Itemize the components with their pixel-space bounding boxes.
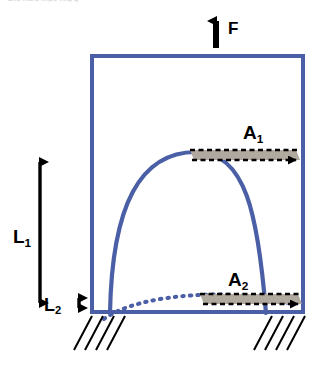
area-label-a2-subscript: 2: [242, 279, 249, 292]
area-label-a1: A1: [243, 123, 263, 142]
area-band-a1: [190, 150, 300, 160]
length-label-l1-subscript: 1: [25, 236, 32, 249]
length-label-l1-name: L: [13, 226, 25, 247]
area-label-a1-subscript: 1: [257, 132, 264, 145]
support-hatching-right: [254, 316, 305, 350]
length-label-l2-subscript: 2: [55, 304, 61, 316]
support-hatching-left: [74, 316, 125, 350]
force-label: F: [228, 20, 238, 37]
blue-frame: [90, 55, 305, 314]
length-label-l2-name: L: [44, 295, 55, 315]
area-label-a1-name: A: [243, 122, 257, 143]
area-label-a2-name: A: [228, 269, 242, 290]
force-label-text: F: [228, 19, 238, 38]
area-band-a1-fill: [190, 150, 300, 160]
length-label-l1: L1: [13, 227, 31, 246]
area-band-a2-fill: [200, 294, 302, 304]
length-label-l2: L2: [44, 296, 61, 314]
area-label-a2: A2: [228, 270, 248, 289]
area-band-a2: [200, 294, 302, 304]
